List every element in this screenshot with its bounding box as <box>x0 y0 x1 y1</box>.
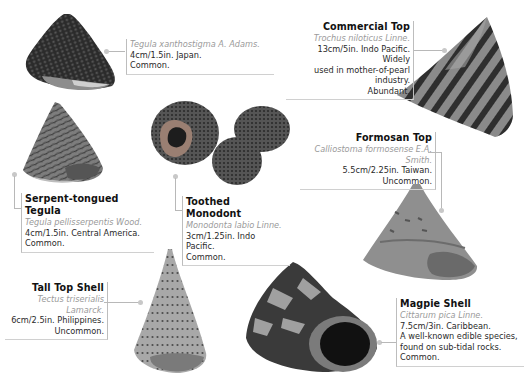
formosan-top-connector <box>441 152 442 208</box>
caption-latin-name: Trochus niloticus Linne. <box>290 33 410 44</box>
toothed-monodont-caption: Toothed Monodont Monodonta labio Linne. … <box>182 196 290 266</box>
caption-detail: Uncommon. <box>9 326 104 337</box>
magpie-shell-image <box>243 258 383 378</box>
caption-detail: 7.5cm/3in. Caribbean. <box>400 321 520 332</box>
caption-detail: used in mother-of-pearl <box>290 65 410 76</box>
formosan-top-caption: Formosan Top Calliostoma formosense E.A.… <box>300 132 436 190</box>
tegula-xanthostigma-shell-image <box>12 8 117 93</box>
caption-latin-name: Tegula xanthostigma A. Adams. <box>130 39 270 50</box>
commercial-top-connector <box>414 50 444 51</box>
caption-detail: 6cm/2.5in. Philippines. <box>9 315 104 326</box>
caption-title: Formosan Top <box>304 132 432 144</box>
commercial-top-shell-image <box>395 15 529 140</box>
serpent-tongued-tegula-connector <box>14 176 15 208</box>
caption-latin-name: Tectus triserialis Lamarck. <box>9 294 104 315</box>
caption-title: Serpent-tongued Tegula <box>25 193 150 217</box>
caption-detail: Common. <box>130 60 270 71</box>
caption-title: Tall Top Shell <box>9 282 104 294</box>
caption-title: Commercial Top <box>290 21 410 33</box>
caption-detail: Uncommon. <box>304 176 432 187</box>
caption-detail: 3cm/1.25in. Indo Pacific. <box>186 231 286 252</box>
serpent-tongued-tegula-caption: Serpent-tongued Tegula Tegula pellisserp… <box>21 193 154 253</box>
tall-top-shell-pointer-dot <box>138 300 143 305</box>
tegula-xanthostigma-pointer-dot <box>104 49 109 54</box>
caption-latin-name: Cittarum pica Linne. <box>400 310 520 321</box>
caption-detail: Common. <box>400 352 520 363</box>
magpie-shell-connector <box>381 342 396 343</box>
caption-detail: industry. <box>290 75 410 86</box>
commercial-top-caption: Commercial Top Trochus niloticus Linne. … <box>286 21 414 100</box>
caption-detail: found on sub-tidal rocks. <box>400 342 520 353</box>
tegula-xanthostigma-connector <box>107 51 125 52</box>
caption-title: Magpie Shell <box>400 298 520 310</box>
magpie-shell-caption: Magpie Shell Cittarum pica Linne. 7.5cm/… <box>396 298 524 367</box>
formosan-top-connector-h <box>428 152 441 153</box>
caption-detail: 4cm/1.5in. Central America. <box>25 228 150 239</box>
commercial-top-pointer-dot <box>442 48 447 53</box>
caption-detail: 4cm/1.5in. Japan. <box>130 50 270 61</box>
caption-title: Toothed Monodont <box>186 196 286 220</box>
caption-latin-name: Tegula pellisserpentis Wood. <box>25 217 150 228</box>
caption-detail: Abundant. <box>290 86 410 97</box>
caption-detail: 5.5cm/2.25in. Taiwan. <box>304 165 432 176</box>
tall-top-shell-connector <box>104 302 140 303</box>
serpent-tongued-tegula-shell-image <box>20 98 105 186</box>
caption-detail: 13cm/5in. Indo Pacific. Widely <box>290 44 410 65</box>
caption-detail: A well-known edible species, <box>400 331 520 342</box>
toothed-monodont-connector <box>175 178 176 210</box>
caption-detail: Common. <box>186 252 286 263</box>
caption-latin-name: Calliostoma formosense E.A. Smith. <box>304 144 432 165</box>
toothed-monodont-shell-image <box>150 97 295 187</box>
caption-detail: Common. <box>25 238 150 249</box>
tall-top-shell-caption: Tall Top Shell Tectus triserialis Lamarc… <box>5 282 108 340</box>
formosan-top-pointer-dot <box>439 208 444 213</box>
tegula-xanthostigma-caption: Tegula xanthostigma A. Adams. 4cm/1.5in.… <box>126 39 274 75</box>
caption-latin-name: Monodonta labio Linne. <box>186 220 286 231</box>
